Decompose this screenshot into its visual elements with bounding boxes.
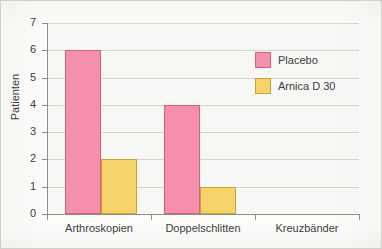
x-tick-mark-0 (47, 214, 48, 220)
legend-label-arnica: Arnica D 30 (278, 80, 335, 92)
y-tick-mark-2 (42, 159, 48, 160)
chart-legend: Placebo Arnica D 30 (255, 47, 335, 99)
bar-chart-figure: 7 6 5 4 3 2 1 0 Arthroskopien Doppelschl… (0, 0, 382, 249)
y-tick-label-0: 0 (10, 208, 36, 219)
y-tick-mark-6 (42, 50, 48, 51)
bar-arnica-doppelschlitten (200, 187, 236, 214)
y-tick-mark-1 (42, 187, 48, 188)
x-category-label-doppelschlitten: Doppelschlitten (151, 222, 255, 234)
bar-placebo-doppelschlitten (164, 105, 200, 214)
y-tick-mark-3 (42, 132, 48, 133)
legend-label-placebo: Placebo (278, 54, 318, 66)
x-tick-mark-1 (151, 214, 152, 220)
x-tick-mark-3 (359, 214, 360, 220)
y-axis-title-text: Patienten (9, 73, 21, 119)
legend-item-arnica: Arnica D 30 (255, 73, 335, 99)
y-tick-mark-5 (42, 78, 48, 79)
x-tick-mark-2 (255, 214, 256, 220)
gridline-7 (47, 23, 359, 24)
arnica-swatch-icon (255, 78, 271, 94)
x-category-label-kreuzbaender: Kreuzbänder (255, 222, 359, 234)
x-category-label-arthroskopien: Arthroskopien (47, 222, 151, 234)
bar-arnica-arthroskopien (101, 159, 137, 214)
y-tick-mark-4 (42, 105, 48, 106)
bar-placebo-arthroskopien (65, 50, 101, 214)
y-axis-title: Patienten (7, 1, 23, 192)
y-tick-mark-7 (42, 23, 48, 24)
x-axis-line (47, 214, 359, 215)
legend-item-placebo: Placebo (255, 47, 335, 73)
placebo-swatch-icon (255, 52, 271, 68)
